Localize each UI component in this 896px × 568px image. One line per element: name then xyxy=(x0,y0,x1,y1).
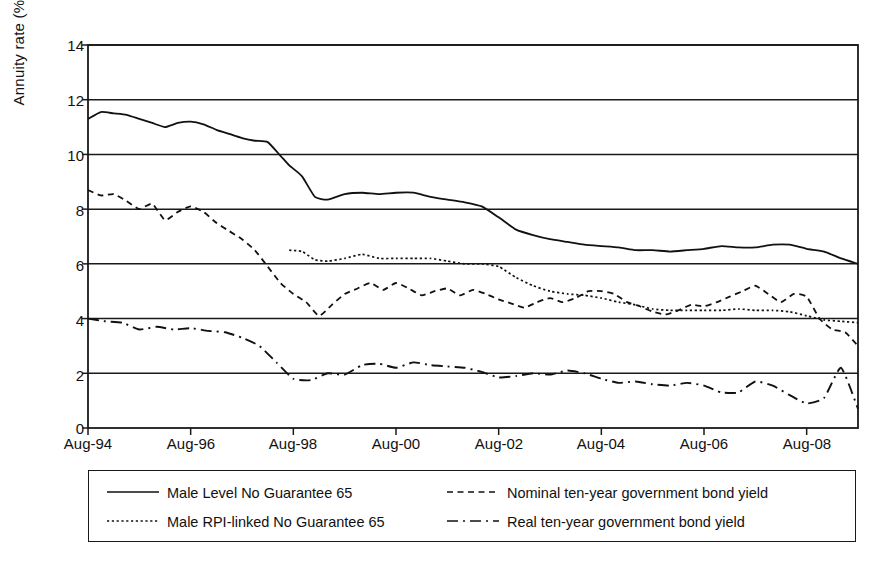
legend-label-nominal-bond: Nominal ten-year government bond yield xyxy=(507,485,768,501)
chart-figure: Annuity rate (%) 14 12 10 8 6 4 2 0 Aug-… xyxy=(0,0,896,568)
legend-label-real-bond: Real ten-year government bond yield xyxy=(507,514,745,530)
plot-frame xyxy=(88,45,858,428)
legend: Male Level No Guarantee 65 Male RPI-link… xyxy=(88,470,856,542)
series-line-2 xyxy=(88,190,858,346)
legend-swatches xyxy=(89,471,857,543)
legend-label-male-rpi-linked: Male RPI-linked No Guarantee 65 xyxy=(167,514,385,530)
legend-label-male-level: Male Level No Guarantee 65 xyxy=(167,485,352,501)
axis-tickmarks xyxy=(82,45,807,435)
data-series-group xyxy=(88,112,858,409)
series-line-3 xyxy=(88,319,858,409)
series-line-1 xyxy=(289,250,858,323)
series-line-0 xyxy=(88,112,858,264)
gridlines xyxy=(88,45,858,373)
